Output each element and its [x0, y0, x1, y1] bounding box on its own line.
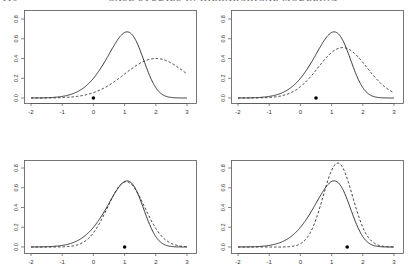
- x-tick-label: 0: [299, 259, 303, 265]
- y-tick-label: 0.2: [220, 223, 226, 231]
- x-tick-label: 3: [185, 109, 189, 115]
- x-axis: -2-10123: [235, 253, 396, 265]
- solid-curve: [238, 32, 394, 98]
- x-tick-label: 0: [92, 109, 96, 115]
- y-tick-label: 0.2: [13, 74, 19, 82]
- y-tick-label: 0.4: [13, 204, 19, 212]
- x-tick-label: 2: [154, 259, 158, 265]
- x-tick-label: 1: [330, 109, 334, 115]
- y-tick-label: 0.0: [220, 243, 226, 251]
- x-tick-label: 2: [361, 109, 365, 115]
- plot-bottom-right: -2-101230.00.20.40.60.8: [207, 150, 414, 272]
- y-tick-label: 0.6: [13, 184, 19, 192]
- y-tick-label: 0.0: [220, 94, 226, 102]
- dashed-curve: [238, 163, 394, 247]
- x-tick-label: 3: [392, 259, 396, 265]
- x-tick-label: -2: [28, 259, 34, 265]
- x-axis: -2-10123: [28, 103, 189, 115]
- y-axis: 0.00.20.40.60.8: [13, 15, 24, 102]
- x-tick-label: 3: [392, 109, 396, 115]
- y-tick-label: 0.6: [220, 184, 226, 192]
- solid-curve: [31, 32, 187, 98]
- x-tick-label: -1: [267, 109, 273, 115]
- plot-frame: [25, 161, 197, 254]
- y-tick-label: 0.0: [13, 243, 19, 251]
- x-tick-label: -1: [60, 109, 66, 115]
- x-axis: -2-10123: [235, 103, 396, 115]
- observation-point: [123, 245, 127, 249]
- x-axis: -2-10123: [28, 253, 189, 265]
- x-tick-label: 1: [330, 259, 334, 265]
- solid-curve: [238, 181, 394, 247]
- y-tick-label: 0.4: [220, 55, 226, 63]
- x-tick-label: 0: [299, 109, 303, 115]
- y-tick-label: 0.6: [220, 35, 226, 43]
- x-tick-label: 2: [154, 109, 158, 115]
- y-axis: 0.00.20.40.60.8: [13, 164, 24, 251]
- dashed-curve: [31, 59, 187, 99]
- plot-frame: [232, 161, 404, 254]
- y-tick-label: 0.0: [13, 94, 19, 102]
- y-tick-label: 0.4: [13, 55, 19, 63]
- y-tick-label: 0.8: [13, 15, 19, 23]
- x-tick-label: -1: [60, 259, 66, 265]
- x-tick-label: 2: [361, 259, 365, 265]
- y-axis: 0.00.20.40.60.8: [220, 15, 231, 102]
- x-tick-label: 3: [185, 259, 189, 265]
- y-tick-label: 0.6: [13, 35, 19, 43]
- y-tick-label: 0.2: [13, 223, 19, 231]
- x-tick-label: 1: [123, 259, 127, 265]
- x-tick-label: 1: [123, 109, 127, 115]
- y-tick-label: 0.8: [13, 164, 19, 172]
- x-tick-label: 0: [92, 259, 96, 265]
- plot-top-right: -2-101230.00.20.40.60.8: [207, 0, 414, 136]
- observation-point: [314, 96, 318, 100]
- y-tick-label: 0.8: [220, 15, 226, 23]
- plot-top-left: -2-101230.00.20.40.60.8: [0, 0, 207, 136]
- dashed-curve: [31, 182, 187, 247]
- x-tick-label: -1: [267, 259, 273, 265]
- solid-curve: [31, 181, 187, 247]
- observation-point: [345, 245, 349, 249]
- x-tick-label: -2: [235, 259, 241, 265]
- plot-bottom-left: -2-101230.00.20.40.60.8: [0, 150, 207, 272]
- y-axis: 0.00.20.40.60.8: [220, 164, 231, 251]
- plot-frame: [232, 11, 404, 104]
- plot-frame: [25, 11, 197, 104]
- y-tick-label: 0.8: [220, 164, 226, 172]
- x-tick-label: -2: [235, 109, 241, 115]
- y-tick-label: 0.2: [220, 74, 226, 82]
- y-tick-label: 0.4: [220, 204, 226, 212]
- x-tick-label: -2: [28, 109, 34, 115]
- observation-point: [92, 96, 96, 100]
